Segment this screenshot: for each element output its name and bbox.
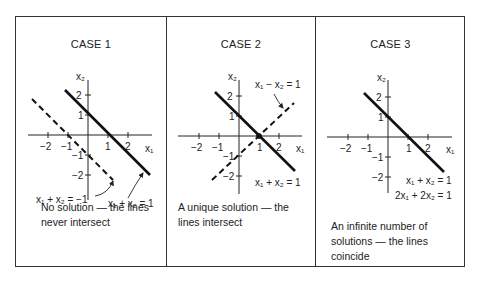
svg-text:2: 2 xyxy=(376,92,382,103)
svg-text:x₂: x₂ xyxy=(377,72,386,83)
svg-text:1: 1 xyxy=(378,112,384,123)
equation-label: 2x₁ + 2x₂ = 1 xyxy=(395,190,452,201)
svg-text:2: 2 xyxy=(425,143,431,154)
svg-text:−1: −1 xyxy=(372,152,384,163)
svg-text:x₁: x₁ xyxy=(446,144,455,155)
case-3-plot: x₂ x₁ −2 −1 1 2 2 1 −1 −2 x₁ + x₂ = 1 2x… xyxy=(0,0,478,281)
svg-text:1: 1 xyxy=(406,143,412,154)
equation-label: x₁ + x₂ = 1 xyxy=(406,175,452,186)
svg-text:−2: −2 xyxy=(372,172,384,183)
svg-text:−2: −2 xyxy=(340,143,352,154)
